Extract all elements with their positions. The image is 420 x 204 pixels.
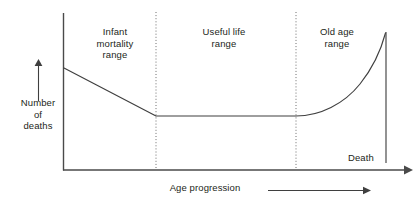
x-axis-label: Age progression [148,182,262,194]
x-axis-direction-arrowhead [363,187,371,194]
bathtub-curve-diagram: Infant mortality range Useful life range… [0,0,420,204]
region-label-old-age: Old age range [298,26,376,49]
y-axis-label: Number of deaths [2,97,74,132]
death-marker-label: Death [348,152,402,164]
y-axis-direction-arrowhead [35,59,43,66]
region-label-infant-mortality: Infant mortality range [80,26,150,61]
region-label-useful-life: Useful life range [168,26,280,49]
x-axis-arrowhead [404,166,413,175]
